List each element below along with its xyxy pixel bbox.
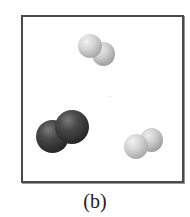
atom-icon <box>55 110 89 144</box>
atom-icon <box>124 134 148 159</box>
artifact-dot <box>110 96 111 97</box>
figure-caption: (b) <box>0 190 190 212</box>
diagram-frame <box>21 15 184 183</box>
atom-icon <box>78 34 102 58</box>
